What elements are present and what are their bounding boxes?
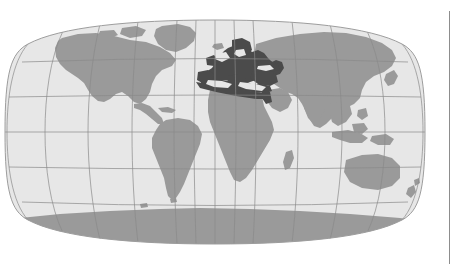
world-map-figure: World map in Robinson projection with Eu… [0, 0, 430, 264]
figure-page: World map in Robinson projection with Eu… [0, 0, 461, 264]
world-map-svg [0, 0, 430, 264]
right-vertical-rule [449, 11, 450, 264]
